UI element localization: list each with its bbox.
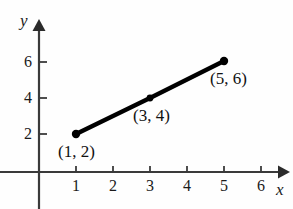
data-point-5-6	[220, 57, 228, 65]
point-annotation-1-2: (1, 2)	[58, 143, 95, 160]
point-annotation-5-6: (5, 6)	[210, 70, 247, 87]
y-tick-label-6: 6	[18, 54, 38, 70]
data-point-1-2	[72, 130, 80, 138]
x-tick-label-2: 2	[103, 178, 123, 194]
line-graph-figure: y x 1 2 3 4 5 6 2 4 6 (1, 2) (3, 4) (5, …	[0, 0, 293, 209]
x-tick-label-3: 3	[140, 178, 160, 194]
y-axis-arrowhead	[33, 19, 46, 31]
data-point-3-4	[147, 95, 154, 102]
y-tick-label-4: 4	[18, 90, 38, 106]
y-axis-ticks	[39, 62, 47, 134]
x-axis-arrowhead	[278, 166, 290, 179]
x-tick-label-4: 4	[177, 178, 197, 194]
y-axis-label: y	[20, 12, 28, 29]
x-tick-label-5: 5	[214, 178, 234, 194]
y-tick-label-2: 2	[18, 126, 38, 142]
x-axis-label: x	[276, 181, 284, 198]
x-tick-label-6: 6	[251, 178, 271, 194]
point-annotation-3-4: (3, 4)	[133, 107, 170, 124]
x-tick-label-1: 1	[66, 178, 86, 194]
